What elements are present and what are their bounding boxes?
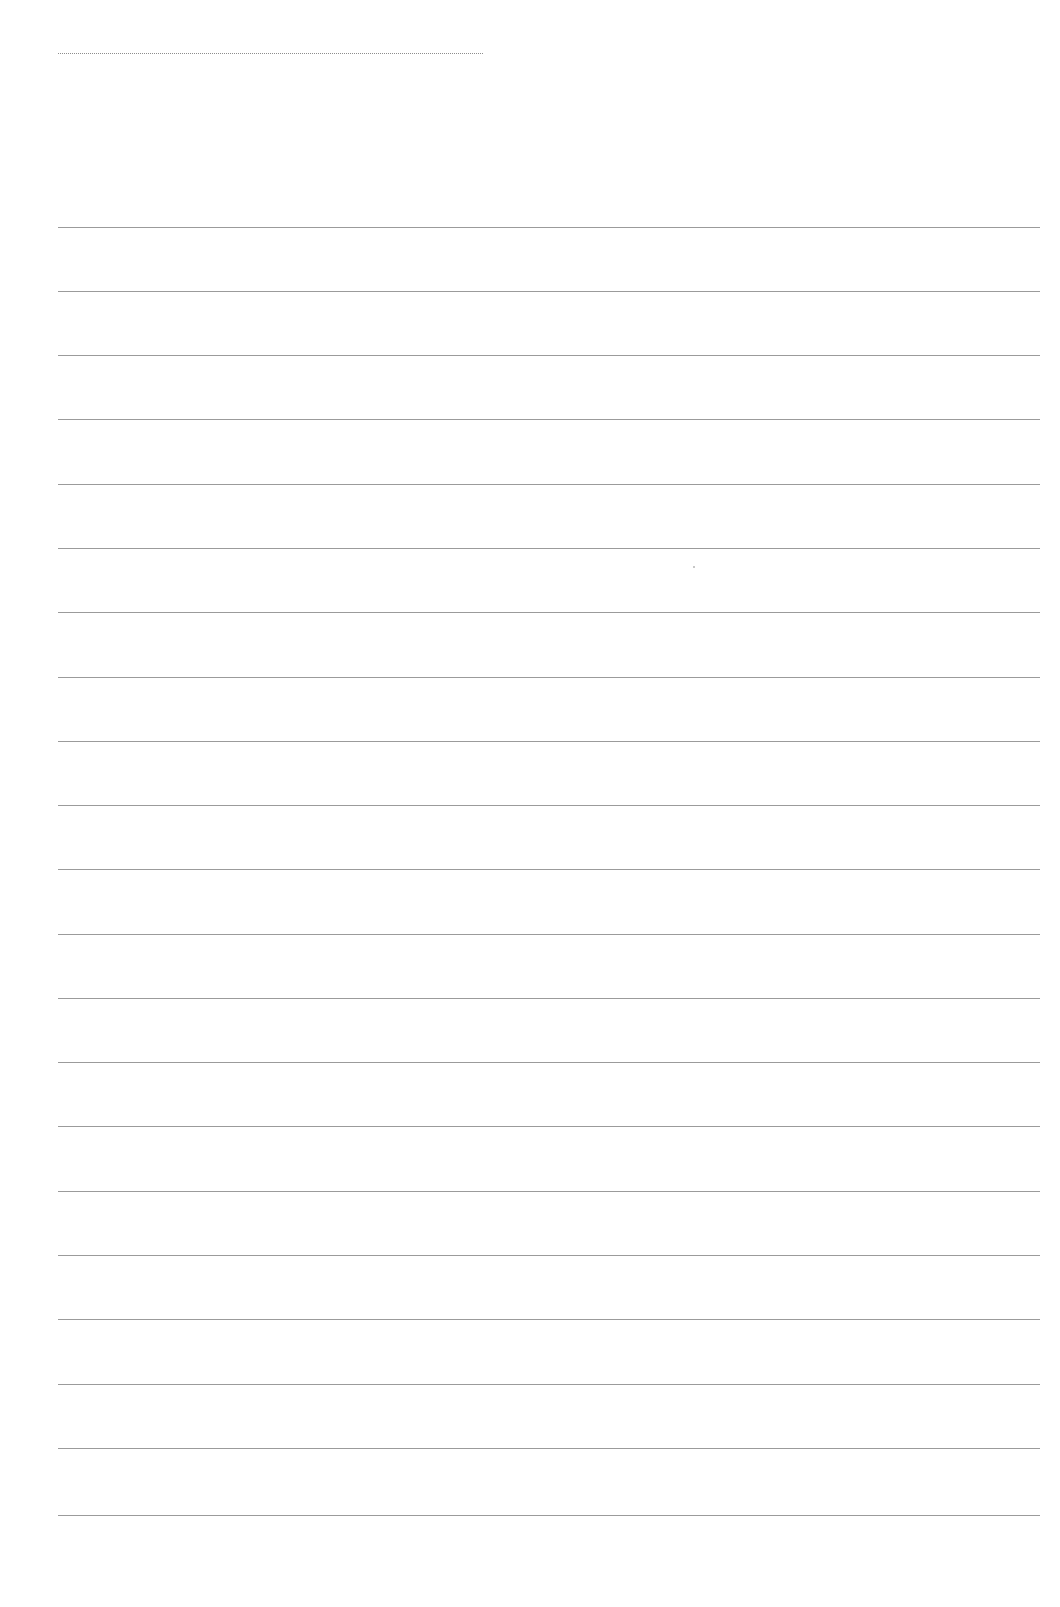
ruled-line — [58, 998, 1040, 999]
ruled-line — [58, 1255, 1040, 1256]
ruled-line — [58, 1126, 1040, 1127]
ruled-line — [58, 1515, 1040, 1516]
ruled-line — [58, 612, 1040, 613]
ruled-line — [58, 291, 1040, 292]
ruled-line — [58, 484, 1040, 485]
ruled-line — [58, 1062, 1040, 1063]
ruled-line — [58, 934, 1040, 935]
ruled-line — [58, 355, 1040, 356]
ruled-line — [58, 1319, 1040, 1320]
ruled-line — [58, 227, 1040, 228]
ruled-line — [58, 805, 1040, 806]
ruled-line — [58, 741, 1040, 742]
paper-speck — [693, 566, 695, 568]
ruled-line — [58, 677, 1040, 678]
ruled-line — [58, 419, 1040, 420]
header-rule — [58, 53, 483, 54]
ruled-line — [58, 869, 1040, 870]
ruled-line — [58, 1191, 1040, 1192]
ruled-line — [58, 1384, 1040, 1385]
lined-page — [0, 0, 1060, 1607]
ruled-line — [58, 548, 1040, 549]
ruled-line — [58, 1448, 1040, 1449]
